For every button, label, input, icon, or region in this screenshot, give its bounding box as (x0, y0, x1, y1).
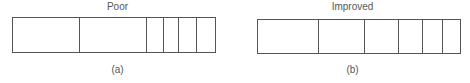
bar-segment (164, 18, 180, 52)
bar-segment (399, 20, 424, 53)
panel-caption: (a) (0, 64, 235, 75)
bar-segment (423, 20, 443, 53)
segmented-bar (257, 19, 461, 54)
bar-segment (13, 18, 80, 52)
bar-segment (179, 18, 197, 52)
panel-title: Improved (235, 1, 470, 12)
bar-segment (80, 18, 146, 52)
panel-caption: (b) (235, 64, 470, 75)
bar-segment (258, 20, 319, 53)
panel-poor: Poor (a) (0, 0, 235, 83)
bar-segment (365, 20, 399, 53)
bar-segment (443, 20, 460, 53)
segmented-bar (12, 17, 216, 53)
panel-improved: Improved (b) (235, 0, 470, 83)
panel-title: Poor (0, 1, 235, 12)
bar-segment (197, 18, 215, 52)
bar-segment (147, 18, 164, 52)
bar-segment (319, 20, 365, 53)
